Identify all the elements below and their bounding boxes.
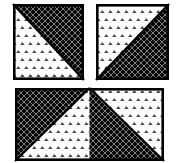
quilt-pattern-figure (0, 0, 176, 163)
pattern-figure-canvas (0, 0, 176, 163)
top-right-square (96, 4, 169, 80)
bottom-rectangle (15, 88, 164, 161)
top-left-square (13, 4, 84, 80)
